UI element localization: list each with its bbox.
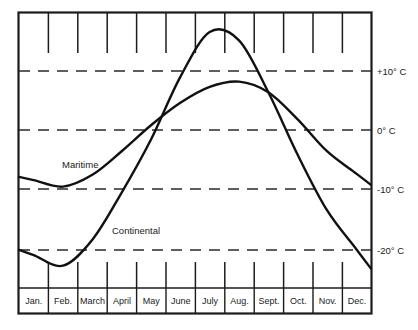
y-axis-labels: +10° C 0° C -10° C -20° C <box>377 66 407 256</box>
month-label-jul: July <box>202 296 219 306</box>
y-label-minus-twenty: -20° C <box>377 245 404 256</box>
month-label-dec: Dec. <box>348 296 367 306</box>
month-label-aug: Aug. <box>230 296 249 306</box>
month-label-mar: March <box>80 296 105 306</box>
climate-temperature-chart: +10° C 0° C -10° C -20° C Jan. Feb. Marc… <box>0 0 418 330</box>
month-label-may: May <box>143 296 161 306</box>
series-annotation-maritime: Maritime <box>62 159 98 170</box>
month-label-apr: April <box>113 296 131 306</box>
bottom-ticks-group <box>48 262 342 288</box>
series-line-maritime <box>19 81 371 186</box>
series-annotation-continental: Continental <box>112 225 160 236</box>
month-label-sep: Sept. <box>258 296 279 306</box>
month-label-jan: Jan. <box>25 296 42 306</box>
top-ticks-group <box>48 13 342 53</box>
month-label-jun: June <box>171 296 191 306</box>
series-line-continental <box>19 29 371 268</box>
y-label-zero: 0° C <box>377 125 396 136</box>
month-label-oct: Oct. <box>290 296 307 306</box>
y-label-minus-ten: -10° C <box>377 184 404 195</box>
chart-canvas: +10° C 0° C -10° C -20° C Jan. Feb. Marc… <box>0 0 418 330</box>
month-label-nov: Nov. <box>319 296 337 306</box>
y-label-plus-ten: +10° C <box>377 66 407 77</box>
month-label-feb: Feb. <box>54 296 72 306</box>
